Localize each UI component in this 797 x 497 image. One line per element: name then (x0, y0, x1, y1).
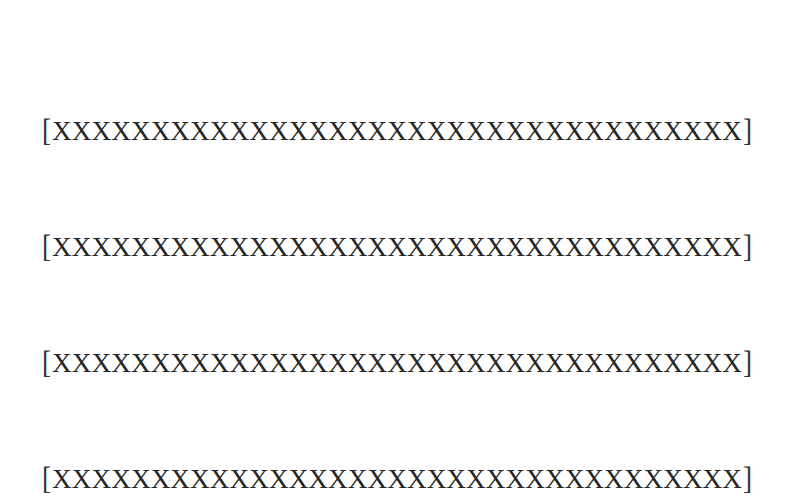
grid-row-3: [XXXXXXXXXXXXXXXXXXXXXXXXXXXXXXXXXXX] (42, 349, 754, 378)
open-bracket: [ (42, 114, 51, 147)
row-text: XXXXXXXXXXXXXXXXXXXXXXXXXXXXXXXXXXX (52, 116, 742, 146)
row-text: XXXXXXXXXXXXXXXXXXXXXXXXXXXXXXXXXXX (52, 464, 742, 494)
row-text: XXXXXXXXXXXXXXXXXXXXXXXXXXXXXXXXXXX (52, 348, 742, 378)
close-bracket: ] (743, 346, 752, 379)
grid-row-4: [XXXXXXXXXXXXXXXXXXXXXXXXXXXXXXXXXXX] (42, 465, 754, 494)
x-character-grid: [XXXXXXXXXXXXXXXXXXXXXXXXXXXXXXXXXXX] [X… (42, 30, 754, 497)
close-bracket: ] (743, 114, 752, 147)
row-text: XXXXXXXXXXXXXXXXXXXXXXXXXXXXXXXXXXX (52, 232, 742, 262)
open-bracket: [ (42, 230, 51, 263)
close-bracket: ] (743, 462, 752, 495)
grid-row-2: [XXXXXXXXXXXXXXXXXXXXXXXXXXXXXXXXXXX] (42, 233, 754, 262)
open-bracket: [ (42, 462, 51, 495)
close-bracket: ] (743, 230, 752, 263)
grid-row-1: [XXXXXXXXXXXXXXXXXXXXXXXXXXXXXXXXXXX] (42, 117, 754, 146)
open-bracket: [ (42, 346, 51, 379)
